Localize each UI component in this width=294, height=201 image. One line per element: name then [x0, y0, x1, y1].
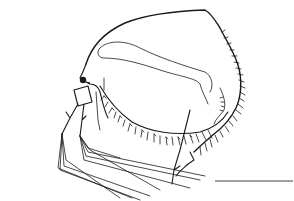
antennule — [74, 86, 92, 106]
illustration-svg — [0, 0, 294, 201]
posterior-spines — [200, 30, 245, 155]
compound-eye — [80, 77, 86, 83]
postabdomen-spines — [220, 97, 224, 111]
gut — [98, 42, 212, 104]
head-shield — [80, 64, 108, 118]
carapace-ventral-margin — [100, 86, 228, 134]
ocellus — [88, 82, 90, 84]
antenna-setae-left — [58, 134, 150, 200]
ventral-setae — [101, 96, 212, 145]
crustacean-illustration — [0, 0, 294, 201]
carapace-outline — [86, 10, 241, 152]
antenna-branches — [62, 104, 86, 136]
